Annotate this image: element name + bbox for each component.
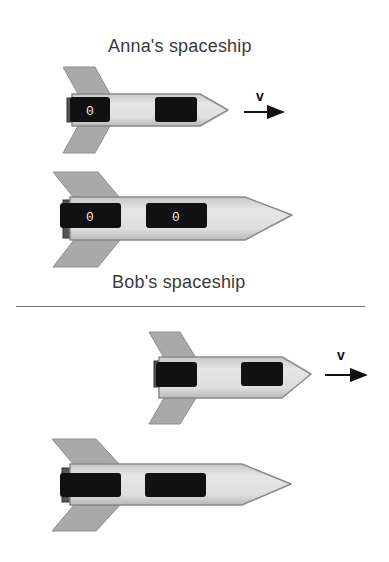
spaceship-diagram: 0 0 0 (0, 0, 389, 562)
window-front (241, 362, 283, 386)
window-rear (156, 362, 197, 387)
ship-anna-frame2 (149, 332, 311, 424)
window-rear (60, 473, 121, 497)
fin-top (149, 332, 196, 358)
fin-bottom (53, 240, 120, 267)
fin-bottom (52, 505, 120, 531)
clock-rear: 0 (86, 210, 94, 225)
ship-bob-frame2 (52, 439, 291, 531)
window-front (155, 97, 197, 122)
fin-bottom (63, 126, 110, 153)
window-front (145, 473, 206, 497)
ship-anna-frame1: 0 (63, 67, 228, 153)
fin-top (63, 67, 110, 94)
fin-top (53, 172, 120, 198)
fin-top (52, 439, 120, 465)
ship-bob-frame1: 0 0 (53, 172, 292, 267)
clock-front: 0 (172, 210, 180, 225)
fin-bottom (149, 398, 196, 424)
clock-rear: 0 (86, 104, 94, 119)
